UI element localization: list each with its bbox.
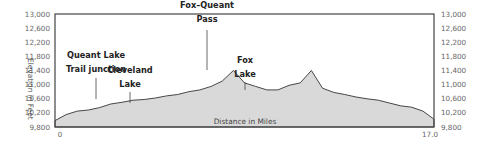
y-tick: 11,800: [441, 52, 467, 61]
annotation-label: Fox: [237, 55, 254, 65]
y-tick: 11,000: [441, 80, 467, 89]
y-tick: 13,000: [25, 10, 51, 19]
y-tick: 10,200: [441, 108, 467, 117]
y-tick: 12,600: [441, 24, 467, 33]
y-axis-ticks-right: 13,00012,60012,20011,80011,40011,00010,6…: [441, 10, 467, 132]
x-tick-end: 17.0: [422, 130, 438, 139]
y-tick: 12,200: [441, 38, 467, 47]
y-tick: 12,200: [25, 38, 51, 47]
annotation-label: Queant Lake: [67, 50, 125, 60]
y-tick: 13,000: [441, 10, 467, 19]
elevation-profile-chart: 13,00012,60012,20011,80011,40011,00010,6…: [0, 0, 489, 151]
y-tick: 11,400: [441, 66, 467, 75]
y-tick: 9,800: [441, 123, 462, 132]
y-tick: 12,600: [25, 24, 51, 33]
y-tick: 9,800: [29, 123, 50, 132]
annotation-label: Cleveland: [107, 65, 152, 75]
annotation-label: Fox–Queant: [180, 0, 234, 10]
annotation-label: Pass: [196, 14, 217, 24]
y-tick: 10,600: [441, 94, 467, 103]
x-axis-label: Distance in Miles: [214, 117, 277, 126]
x-tick-0: 0: [58, 130, 63, 139]
annotation-label: Lake: [119, 79, 141, 89]
y-axis-label: Elevation in Feet: [26, 58, 35, 120]
annotation-label: Lake: [234, 69, 256, 79]
